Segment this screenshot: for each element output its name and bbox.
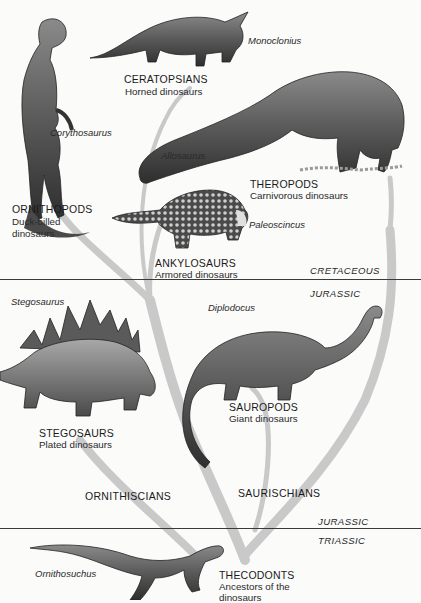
group-label-thecodonts: THECODONTS xyxy=(219,569,295,581)
genus-label-monoclonius: Monoclonius xyxy=(248,36,301,47)
group-desc-sauropods: Giant dinosaurs xyxy=(229,413,298,424)
period-label-triassic: TRIASSIC xyxy=(318,535,365,546)
group-desc-ornithopods-line1: Duck-billed xyxy=(12,216,60,227)
genus-label-stegosaurus: Stegosaurus xyxy=(11,297,64,308)
group-label-stegosaurs: STEGOSAURS xyxy=(39,427,114,439)
clade-label-saurischians: SAURISCHIANS xyxy=(238,487,320,499)
genus-label-allosaurus: Allosaurus xyxy=(161,151,205,162)
monoclonius-illustration xyxy=(90,12,248,66)
genus-label-ornithosuchus: Ornithosuchus xyxy=(35,569,96,580)
period-label-jurassic-upper: JURASSIC xyxy=(310,288,361,299)
group-label-ankylosaurs: ANKYLOSAURS xyxy=(155,257,236,269)
group-label-ceratopsians: CERATOPSIANS xyxy=(124,73,208,85)
genus-label-corythosaurus: Corythosaurus xyxy=(50,128,112,139)
diplodocus-illustration xyxy=(183,306,382,468)
group-desc-thecodonts-line2: dinosaurs xyxy=(219,592,261,603)
group-desc-ceratopsians: Horned dinosaurs xyxy=(125,86,202,97)
group-desc-ankylosaurs: Armored dinosaurs xyxy=(155,269,238,280)
group-label-ornithopods: ORNITHOPODS xyxy=(12,203,92,215)
genus-label-diplodocus: Diplodocus xyxy=(208,303,255,314)
genus-label-paleoscincus: Paleoscincus xyxy=(249,220,305,231)
group-desc-ornithopods-line2: dinosaurs xyxy=(12,228,54,239)
paleoscincus-illustration xyxy=(112,190,248,248)
stegosaurus-illustration xyxy=(0,300,155,416)
group-desc-stegosaurs: Plated dinosaurs xyxy=(39,439,112,450)
group-label-sauropods: SAUROPODS xyxy=(229,401,298,413)
group-desc-thecodonts-line1: Ancestors of the xyxy=(219,581,290,592)
clade-label-ornithiscians: ORNITHISCIANS xyxy=(85,490,171,502)
group-label-theropods: THEROPODS xyxy=(250,178,318,190)
period-label-cretaceous: CRETACEOUS xyxy=(310,265,380,276)
period-label-jurassic-lower: JURASSIC xyxy=(318,516,369,527)
jurassic-triassic-divider xyxy=(0,528,421,529)
group-desc-theropods: Carnivorous dinosaurs xyxy=(250,190,348,201)
